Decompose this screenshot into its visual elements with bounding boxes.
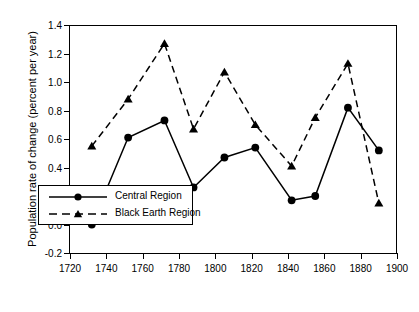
legend-symbol-circle-solid-line bbox=[47, 188, 109, 206]
x-tick-mark bbox=[106, 253, 107, 259]
x-tick-label: 1760 bbox=[132, 263, 154, 274]
x-tick-label: 1820 bbox=[241, 263, 263, 274]
y-tick-label: 1.0 bbox=[48, 77, 62, 88]
data-point-circle bbox=[311, 192, 319, 200]
x-tick-mark bbox=[288, 253, 289, 259]
y-axis-title: Population rate of change (percent per y… bbox=[26, 19, 38, 259]
x-tick-label: 1900 bbox=[386, 263, 408, 274]
x-tick-label: 1720 bbox=[59, 263, 81, 274]
x-tick-label: 1880 bbox=[350, 263, 372, 274]
data-point-triangle bbox=[311, 113, 320, 121]
x-tick-mark bbox=[215, 253, 216, 259]
data-point-circle bbox=[124, 134, 132, 142]
x-tick-mark bbox=[143, 253, 144, 259]
data-point-circle bbox=[344, 104, 352, 112]
x-tick-mark bbox=[179, 253, 180, 259]
data-point-circle bbox=[161, 117, 169, 125]
y-tick-label: 1.4 bbox=[48, 20, 62, 31]
data-point-circle bbox=[221, 154, 229, 162]
data-point-circle bbox=[375, 147, 383, 155]
legend-label: Black Earth Region bbox=[115, 207, 201, 218]
data-point-triangle bbox=[343, 59, 352, 67]
data-point-triangle bbox=[374, 199, 383, 207]
series-black-earth-region bbox=[87, 39, 383, 206]
x-tick-mark bbox=[361, 253, 362, 259]
data-point-circle bbox=[251, 144, 259, 152]
y-tick-label: 1.2 bbox=[48, 48, 62, 59]
x-tick-label: 1800 bbox=[204, 263, 226, 274]
x-tick-mark bbox=[70, 253, 71, 259]
chart-figure: Population rate of change (percent per y… bbox=[0, 0, 419, 312]
x-tick-label: 1740 bbox=[95, 263, 117, 274]
y-tick-label: -0.2 bbox=[45, 248, 62, 259]
x-tick-mark bbox=[324, 253, 325, 259]
data-point-triangle bbox=[220, 68, 229, 76]
x-tick-label: 1840 bbox=[277, 263, 299, 274]
data-point-triangle bbox=[160, 39, 169, 47]
data-point-triangle bbox=[124, 95, 133, 103]
x-tick-mark bbox=[397, 253, 398, 259]
legend-box: Central Region Black Earth Region bbox=[38, 185, 193, 225]
legend-symbol-triangle-dashed-line bbox=[47, 205, 109, 223]
data-point-triangle bbox=[189, 125, 198, 133]
legend-entry-central-region: Central Region bbox=[39, 188, 192, 206]
legend-label: Central Region bbox=[115, 190, 182, 201]
y-tick-label: 0.8 bbox=[48, 105, 62, 116]
x-tick-label: 1860 bbox=[313, 263, 335, 274]
legend-entry-black-earth-region: Black Earth Region bbox=[39, 205, 192, 223]
y-tick-label: 0.6 bbox=[48, 134, 62, 145]
data-point-circle bbox=[288, 196, 296, 204]
x-axis-line bbox=[69, 253, 397, 254]
x-tick-mark bbox=[252, 253, 253, 259]
x-tick-label: 1780 bbox=[168, 263, 190, 274]
series-line bbox=[92, 44, 379, 204]
y-tick-label: 0.4 bbox=[48, 162, 62, 173]
data-point-triangle bbox=[251, 120, 260, 128]
